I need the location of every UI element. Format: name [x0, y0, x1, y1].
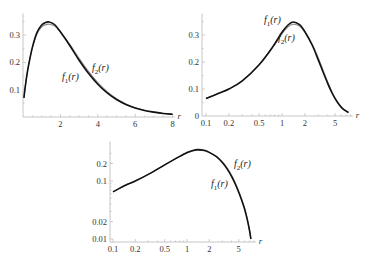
x-tick-label: 1: [185, 244, 189, 254]
x-tick-label: 0.1: [108, 244, 119, 254]
curve-label-f1: f1(r): [264, 14, 282, 28]
x-tick-label: 2: [207, 244, 211, 254]
y-tick-label: 0.1: [9, 85, 20, 95]
y-tick-label: 0.1: [188, 84, 199, 94]
x-tick-label: 6: [133, 119, 137, 129]
curve-label-f2: f2(r): [278, 32, 296, 46]
x-tick-label: 2: [303, 118, 307, 128]
figure: 2468r0.10.20.3f1(r)f2(r) 0.10.20.5125r00…: [0, 0, 371, 261]
x-tick-label: 0.2: [224, 118, 235, 128]
x-axis-label: r: [259, 236, 263, 246]
curve-label-f1: f1(r): [62, 71, 80, 85]
plot-linear: 2468r0.10.20.3f1(r)f2(r): [9, 13, 181, 129]
plot-log-log: 0.10.20.5125r0.010.020.10.2f2(r)f1(r): [92, 141, 263, 254]
x-tick-label: 0.5: [159, 244, 170, 254]
x-axis-label: r: [178, 111, 182, 121]
x-axis-label: r: [356, 110, 360, 120]
curve-label-f2: f2(r): [234, 158, 252, 172]
x-tick-label: 5: [237, 244, 241, 254]
y-tick-label: 0.02: [92, 217, 107, 227]
x-tick-label: 1: [280, 118, 284, 128]
y-tick-label: 0.2: [9, 57, 20, 67]
y-tick-label: 0.2: [188, 57, 199, 67]
x-tick-label: 0.1: [201, 118, 212, 128]
y-tick-label: 0.3: [9, 30, 20, 40]
x-tick-label: 2: [58, 119, 62, 129]
series-f1r-curve: [113, 150, 251, 239]
x-tick-label: 4: [96, 119, 101, 129]
y-tick-label: 0.01: [92, 234, 107, 244]
curve-label-f1: f1(r): [211, 178, 229, 192]
x-tick-label: 5: [333, 118, 337, 128]
x-tick-label: 0.2: [130, 244, 141, 254]
y-tick-label: 0: [195, 111, 199, 121]
y-tick-label: 0.1: [96, 176, 107, 186]
x-tick-label: 0.5: [254, 118, 265, 128]
y-tick-label: 0.3: [188, 30, 199, 40]
curve-label-f2: f2(r): [92, 62, 110, 76]
series-f2r-curve: [113, 150, 251, 239]
y-tick-label: 0.2: [96, 159, 107, 169]
x-tick-label: 8: [170, 119, 174, 129]
plot-log-x: 0.10.20.5125r00.10.20.3f1(r)f2(r): [188, 14, 359, 129]
